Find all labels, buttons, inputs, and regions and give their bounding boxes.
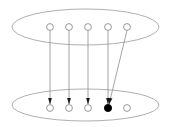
codomain-set-ellipse <box>12 89 159 121</box>
node-b1-open[interactable] <box>47 105 54 112</box>
arrow-head-b4 <box>109 98 113 105</box>
arrow-head-b1 <box>48 98 52 105</box>
arrow-head-b3 <box>86 98 90 105</box>
node-b4-filled[interactable] <box>104 104 111 111</box>
mapping-diagram <box>0 0 171 127</box>
node-t5-open[interactable] <box>124 24 131 31</box>
node-t2-open[interactable] <box>66 24 73 31</box>
node-b2-open[interactable] <box>66 105 73 112</box>
node-b5-open[interactable] <box>124 105 131 112</box>
arrow-head-b2 <box>67 98 71 105</box>
node-t3-open[interactable] <box>85 24 92 31</box>
diagram-canvas <box>0 0 171 127</box>
node-t4-open[interactable] <box>105 24 112 31</box>
edge-t5-to-b4 <box>109 30 127 104</box>
node-t1-open[interactable] <box>47 24 54 31</box>
arrow-heads-group <box>48 98 112 105</box>
node-b3-open[interactable] <box>85 105 92 112</box>
mapping-edges-group <box>50 30 127 104</box>
